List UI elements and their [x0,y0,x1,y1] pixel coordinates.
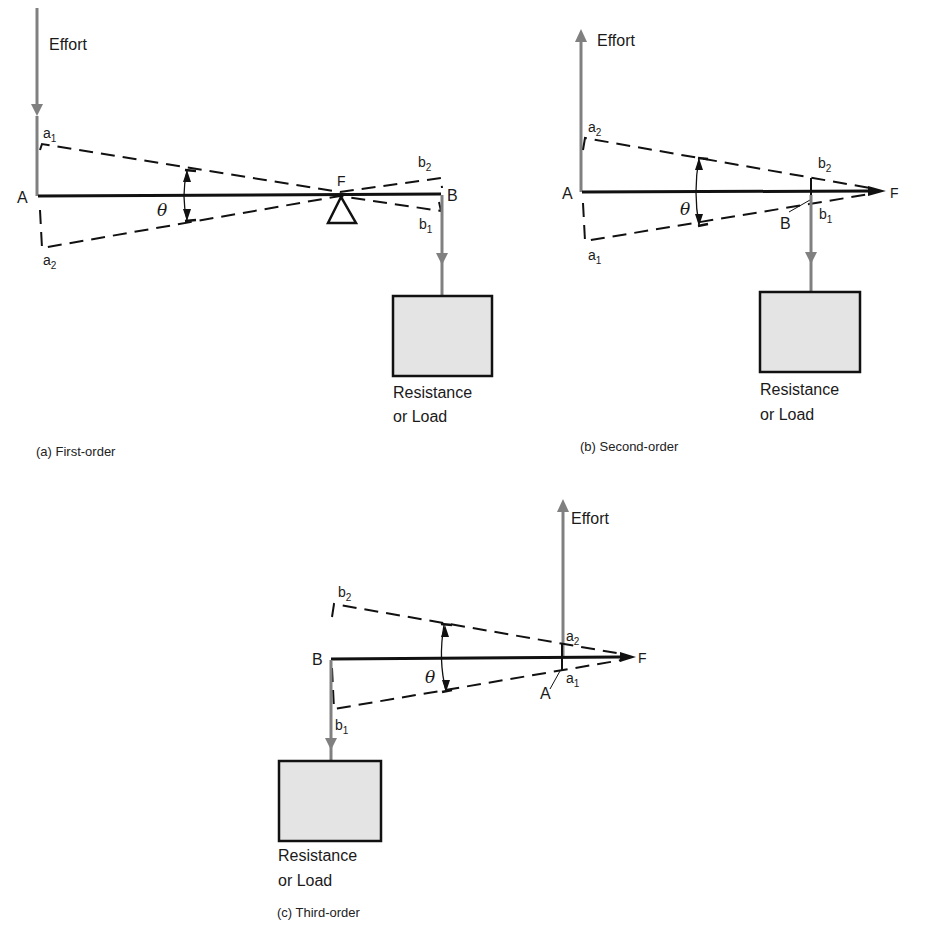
load-label-line2: or Load [393,408,447,425]
point-a2-label: a2 [43,252,57,271]
caption-second-order: (b) Second-order [580,439,679,454]
load-label-line2: or Load [278,872,332,889]
point-b2-label: b2 [418,154,432,173]
lever-bar [582,191,870,192]
point-b1-label: b1 [419,216,433,235]
lever-classes-diagram: Effort θ A F B a1 a2 b2 b1 Resistance or… [0,0,930,937]
load-label-line1: Resistance [393,384,472,401]
point-b-label: B [447,187,458,204]
point-b-label: B [312,651,323,668]
point-a-leader [550,671,560,689]
point-a1-label: a1 [43,125,57,144]
point-a-label: A [17,189,28,206]
point-b1-label: b1 [335,717,349,736]
load-box [279,761,381,841]
load-arrow-down-icon [325,660,337,761]
panel-second-order: Effort θ A F B a2 a1 b2 b1 Resistance or… [562,29,899,454]
fulcrum-label: F [638,650,647,666]
lever-position-a2-b1 [40,196,441,248]
load-label-line1: Resistance [278,847,357,864]
load-box [393,296,492,376]
point-b-label: B [780,215,791,232]
effort-label: Effort [49,36,88,53]
point-a2-label: a2 [588,119,602,138]
angle-theta-label: θ [425,667,435,687]
angle-theta-label: θ [157,200,167,220]
effort-label: Effort [571,510,610,527]
panel-first-order: Effort θ A F B a1 a2 b2 b1 Resistance or… [17,8,492,459]
fulcrum-label: F [890,185,899,201]
caption-first-order: (a) First-order [36,444,116,459]
effort-label: Effort [597,32,636,49]
load-label-line2: or Load [760,406,814,423]
fulcrum-icon [328,197,356,223]
load-arrow-down-icon [436,195,448,296]
lever-bar [38,194,441,196]
load-box [760,292,860,372]
load-label-line1: Resistance [760,381,839,398]
fulcrum-pivot-icon [620,652,636,662]
point-a1-label: a1 [566,670,580,689]
point-b2-label: b2 [338,584,352,603]
point-a-label: A [562,185,573,202]
effort-arrow-down-icon [31,8,43,196]
point-a-label: A [540,685,551,702]
angle-theta-label: θ [680,199,690,219]
lever-bar [331,657,620,659]
point-b2-label: b2 [818,155,832,174]
fulcrum-pivot-icon [868,186,886,196]
fulcrum-label: F [337,173,346,189]
effort-arrow-up-icon [575,29,587,192]
panel-third-order: Effort θ B F A b2 b1 a2 a1 Resistance or… [277,499,647,920]
lever-position-a1-b2 [40,144,442,192]
load-arrow-down-icon [805,195,817,292]
point-b1-label: b1 [819,206,833,225]
point-a1-label: a1 [588,247,602,266]
caption-third-order: (c) Third-order [277,905,361,920]
